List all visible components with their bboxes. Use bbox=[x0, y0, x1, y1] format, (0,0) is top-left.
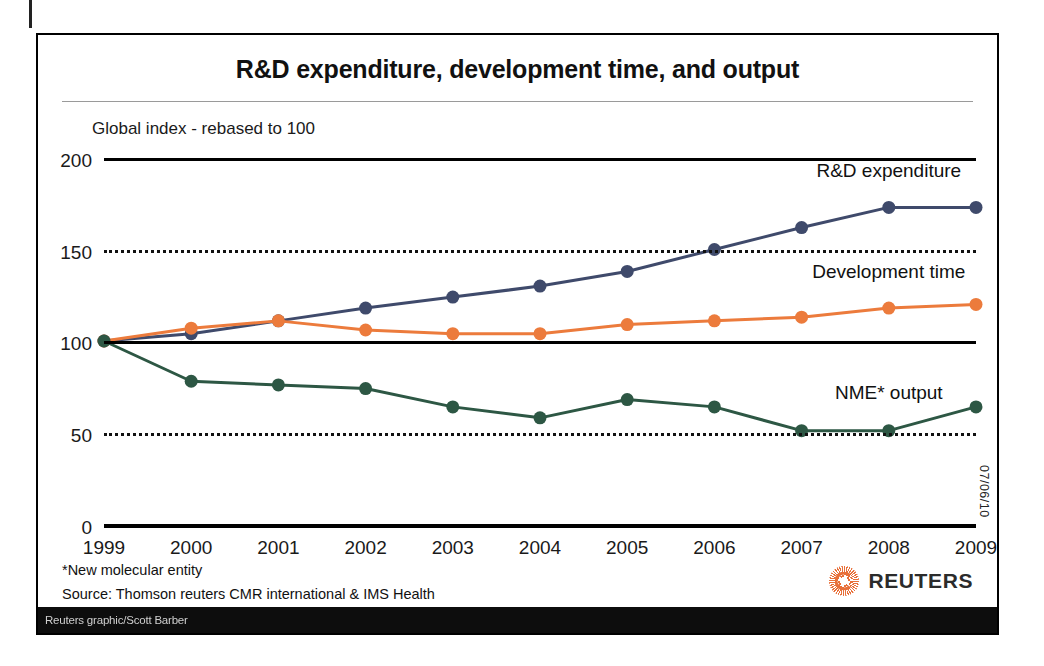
data-point bbox=[795, 311, 808, 324]
data-point bbox=[621, 265, 634, 278]
data-point bbox=[272, 314, 285, 327]
x-axis-tick-2007: 2007 bbox=[780, 537, 822, 559]
x-axis-tick-2000: 2000 bbox=[170, 537, 212, 559]
plot-inner: 0501001502001999200020012002200320042005… bbox=[104, 158, 976, 524]
y-axis-tick-150: 150 bbox=[60, 242, 92, 264]
data-point bbox=[446, 291, 459, 304]
data-point bbox=[185, 322, 198, 335]
data-point bbox=[970, 298, 983, 311]
x-axis-tick-2006: 2006 bbox=[693, 537, 735, 559]
x-axis-tick-1999: 1999 bbox=[83, 537, 125, 559]
data-point bbox=[359, 382, 372, 395]
series-label-2: NME* output bbox=[835, 382, 943, 404]
data-point bbox=[621, 393, 634, 406]
data-point bbox=[534, 327, 547, 340]
source-line: Source: Thomson reuters CMR internationa… bbox=[62, 586, 435, 602]
x-axis-tick-2003: 2003 bbox=[432, 537, 474, 559]
y-axis-tick-50: 50 bbox=[71, 425, 92, 447]
data-point bbox=[359, 324, 372, 337]
data-point bbox=[446, 327, 459, 340]
data-point bbox=[970, 201, 983, 214]
data-point bbox=[359, 302, 372, 315]
gridline-100: 100 bbox=[104, 341, 976, 344]
data-point bbox=[185, 375, 198, 388]
x-axis-tick-2001: 2001 bbox=[257, 537, 299, 559]
x-axis-tick-2005: 2005 bbox=[606, 537, 648, 559]
data-point bbox=[272, 378, 285, 391]
y-axis-tick-200: 200 bbox=[60, 150, 92, 172]
gridline-50: 50 bbox=[104, 433, 976, 436]
data-point bbox=[534, 280, 547, 293]
gridline-150: 150 bbox=[104, 250, 976, 253]
date-stamp: 07/06/10 bbox=[977, 465, 991, 518]
data-point bbox=[446, 400, 459, 413]
data-point bbox=[970, 400, 983, 413]
y-axis-tick-100: 100 bbox=[60, 333, 92, 355]
data-point bbox=[882, 302, 895, 315]
page-edge-artifact bbox=[29, 0, 32, 28]
series-label-1: Development time bbox=[812, 261, 965, 283]
data-point bbox=[621, 318, 634, 331]
gridline-0: 0 bbox=[104, 524, 976, 528]
x-axis-tick-2009: 2009 bbox=[955, 537, 997, 559]
data-point bbox=[708, 314, 721, 327]
credit-text: Reuters graphic/Scott Barber bbox=[45, 614, 188, 626]
reuters-roundel-icon bbox=[829, 566, 859, 596]
chart-figure: R&D expenditure, development time, and o… bbox=[36, 33, 999, 635]
x-axis-tick-2002: 2002 bbox=[344, 537, 386, 559]
data-point bbox=[708, 400, 721, 413]
title-divider bbox=[62, 101, 973, 102]
page-title: R&D expenditure, development time, and o… bbox=[38, 55, 997, 84]
data-point bbox=[534, 411, 547, 424]
reuters-logo: REUTERS bbox=[829, 566, 973, 596]
credit-bar: Reuters graphic/Scott Barber bbox=[38, 607, 997, 633]
footnote-nme: *New molecular entity bbox=[62, 562, 202, 578]
chart-subtitle: Global index - rebased to 100 bbox=[92, 119, 315, 139]
series-label-0: R&D expenditure bbox=[816, 160, 961, 182]
x-axis-tick-2008: 2008 bbox=[868, 537, 910, 559]
plot-area: 0501001502001999200020012002200320042005… bbox=[104, 158, 976, 524]
x-axis-tick-2004: 2004 bbox=[519, 537, 561, 559]
y-axis-tick-0: 0 bbox=[81, 517, 92, 539]
data-point bbox=[795, 221, 808, 234]
data-point bbox=[882, 201, 895, 214]
reuters-wordmark: REUTERS bbox=[868, 569, 973, 593]
